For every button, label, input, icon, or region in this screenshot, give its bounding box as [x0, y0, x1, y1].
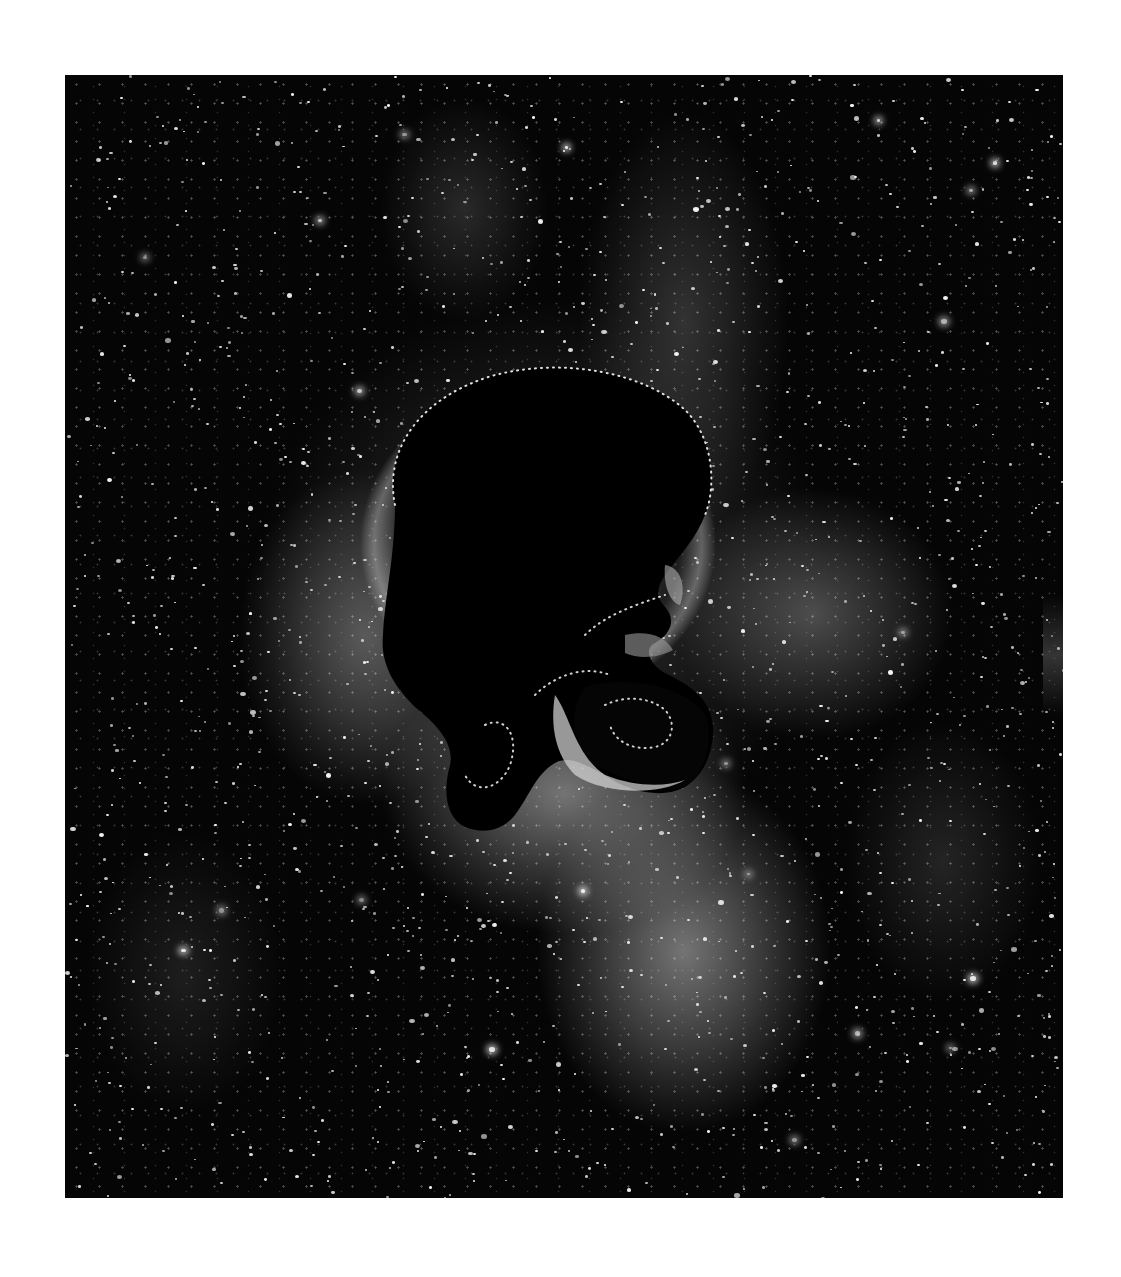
page	[0, 0, 1121, 1277]
artwork-image	[65, 75, 1063, 1198]
skull-silhouette	[65, 75, 1063, 1198]
